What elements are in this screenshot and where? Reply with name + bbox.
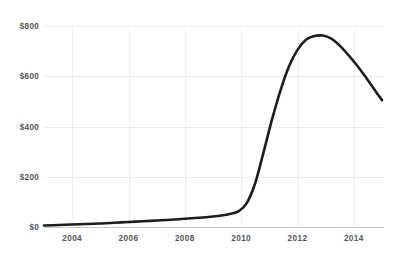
x-tick-label-2004: 2004 [62,234,82,243]
y-tick-label-600: $600 [20,72,39,81]
chart-plot-area: $800$600$400$200$0 200420062008201020122… [0,0,393,256]
x-tick-label-2008: 2008 [175,234,195,243]
y-tick-label-800: $800 [20,22,39,31]
x-tick-label-2010: 2010 [231,234,251,243]
y-axis-tick-labels: $800$600$400$200$0 [20,22,39,232]
line-chart: $800$600$400$200$0 200420062008201020122… [0,0,393,256]
x-tick-label-2014: 2014 [344,234,364,243]
x-tick-label-2012: 2012 [288,234,308,243]
y-tick-label-200: $200 [20,173,39,182]
horizontal-gridlines [44,27,384,178]
x-tick-label-2006: 2006 [119,234,139,243]
series-line-value [44,35,382,225]
y-tick-label-0: $0 [29,223,39,232]
y-tick-label-400: $400 [20,123,39,132]
vertical-gridlines [73,26,355,227]
x-axis-tick-labels: 200420062008201020122014 [62,234,364,243]
